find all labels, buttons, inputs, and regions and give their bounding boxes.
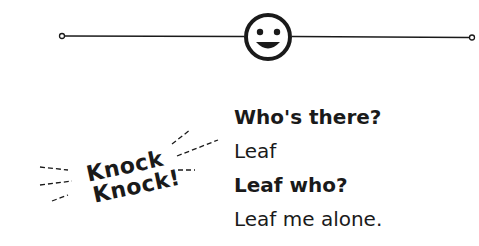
knock-knock-label: Knock Knock! <box>54 135 215 235</box>
punchline: Leaf me alone. <box>234 202 382 236</box>
joke-dialog: Who's there? Leaf Leaf who? Leaf me alon… <box>234 100 382 236</box>
left-endpoint-dot <box>60 34 65 39</box>
right-endpoint-dot <box>470 35 475 40</box>
answer-leaf: Leaf <box>234 134 382 168</box>
divider-with-smiley <box>0 0 479 75</box>
smiley-face-icon <box>246 15 290 59</box>
question-leaf-who: Leaf who? <box>234 168 382 202</box>
question-whos-there: Who's there? <box>234 100 382 134</box>
